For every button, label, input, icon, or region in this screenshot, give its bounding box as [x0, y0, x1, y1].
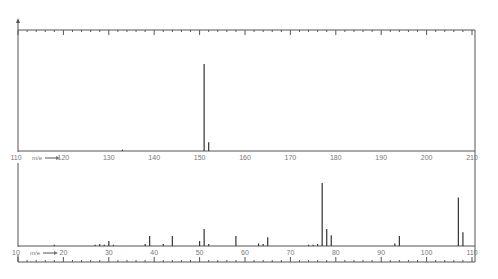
tick-label: 10: [12, 249, 20, 256]
tick-label: 100: [421, 249, 433, 256]
tick-label: 20: [60, 249, 68, 256]
upper-mz-label: m/e: [32, 155, 43, 161]
tick-label: 40: [150, 249, 158, 256]
tick-label: 50: [196, 249, 204, 256]
tick-label: 60: [241, 249, 249, 256]
mass-spectrum-chart: 120130140150160170180190200210110 m/e 20…: [0, 0, 498, 279]
lower-mz-arrowhead-icon: [54, 251, 58, 255]
upper-panel: 120130140150160170180190200210110 m/e: [10, 18, 478, 262]
tick-label: 190: [375, 154, 387, 161]
tick-label: 110: [10, 154, 21, 161]
tick-label: 210: [466, 154, 478, 161]
tick-label: 130: [103, 154, 115, 161]
lower-mz-label: m/e: [30, 250, 41, 256]
tick-label: 150: [194, 154, 206, 161]
tick-label: 120: [58, 154, 70, 161]
lower-axis-labels: 203040506070809010011010: [12, 249, 478, 256]
tick-label: 160: [239, 154, 251, 161]
tick-label: 80: [332, 249, 340, 256]
tick-label: 170: [285, 154, 297, 161]
tick-label: 90: [377, 249, 385, 256]
lower-panel: 203040506070809010011010 m/e: [12, 163, 478, 262]
tick-label: 140: [148, 154, 160, 161]
lower-bottom-ticks: [18, 257, 472, 262]
arrow-up-icon: [16, 18, 20, 23]
tick-label: 110: [466, 249, 477, 256]
lower-peaks: [54, 183, 463, 246]
upper-axis-labels: 120130140150160170180190200210110: [10, 154, 478, 161]
tick-label: 180: [330, 154, 342, 161]
tick-label: 30: [105, 249, 113, 256]
tick-label: 70: [287, 249, 295, 256]
upper-peaks: [122, 64, 208, 151]
upper-top-ticks: [18, 30, 472, 35]
tick-label: 200: [421, 154, 433, 161]
